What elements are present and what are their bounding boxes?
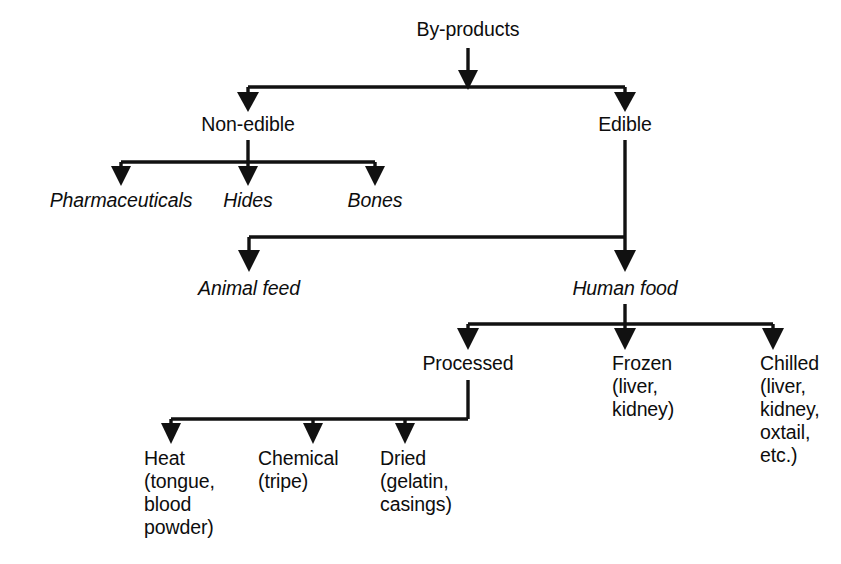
arrowhead-heat: [161, 423, 181, 444]
byproducts-flow-diagram: By-products Non-edible Edible Pharmaceut…: [0, 0, 841, 564]
node-human-food: Human food: [572, 277, 677, 300]
node-bones: Bones: [348, 189, 403, 212]
arrowhead-chilled: [762, 328, 784, 350]
node-by-products: By-products: [417, 18, 520, 41]
node-frozen: Frozen (liver, kidney): [612, 352, 674, 421]
arrowhead-hides: [238, 166, 258, 186]
arrowhead-processed: [457, 328, 479, 350]
node-dried: Dried (gelatin, casings): [380, 447, 452, 516]
arrowhead-edible: [614, 92, 636, 112]
arrowhead-nonedible: [237, 92, 259, 112]
node-non-edible: Non-edible: [201, 113, 294, 136]
node-chilled: Chilled (liver, kidney, oxtail, etc.): [760, 352, 820, 467]
arrowhead-frozen: [614, 328, 636, 350]
arrowhead-bones: [365, 166, 385, 186]
arrowhead-dried: [395, 423, 415, 444]
node-processed: Processed: [422, 352, 513, 375]
arrowhead-humanfood: [614, 250, 636, 272]
node-animal-feed: Animal feed: [198, 277, 300, 300]
arrowhead-chemical: [303, 423, 323, 444]
arrowhead-animalfeed: [238, 250, 260, 272]
node-heat: Heat (tongue, blood powder): [144, 447, 215, 539]
node-pharmaceuticals: Pharmaceuticals: [50, 189, 193, 212]
arrowhead-pharmaceuticals: [111, 166, 131, 186]
node-chemical: Chemical (tripe): [258, 447, 338, 493]
node-hides: Hides: [223, 189, 272, 212]
node-edible: Edible: [598, 113, 652, 136]
